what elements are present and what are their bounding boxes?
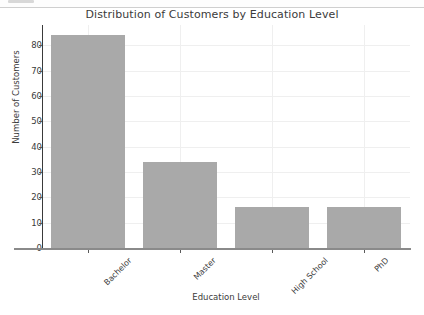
x-tick-label: Bachelor — [102, 256, 133, 287]
x-tick-label: PhD — [373, 256, 391, 274]
y-axis-spine — [42, 25, 43, 248]
x-tick-mark — [180, 250, 181, 253]
x-tick-label: High School — [290, 256, 330, 296]
y-tick-label: 10 — [6, 218, 42, 228]
x-axis-label: Education Level — [42, 292, 410, 302]
x-axis-spine — [14, 248, 411, 250]
bar-phd[interactable] — [327, 207, 401, 248]
chart-title: Distribution of Customers by Education L… — [0, 8, 424, 21]
bar-bachelor[interactable] — [51, 35, 125, 248]
x-tick-mark — [364, 250, 365, 253]
plot-area — [42, 25, 410, 248]
chart-figure: Distribution of Customers by Education L… — [0, 0, 424, 315]
x-tick-mark — [88, 250, 89, 253]
y-axis-ticks: 01020304050607080 — [0, 0, 42, 315]
x-tick-mark — [272, 250, 273, 253]
bar-high-school[interactable] — [235, 207, 309, 248]
bar-master[interactable] — [143, 162, 217, 248]
y-tick-label: 20 — [6, 192, 42, 202]
x-tick-label: Master — [192, 256, 218, 282]
y-axis-label: Number of Customers — [11, 37, 21, 157]
y-tick-label: 30 — [6, 167, 42, 177]
window-top-strip — [0, 0, 424, 8]
